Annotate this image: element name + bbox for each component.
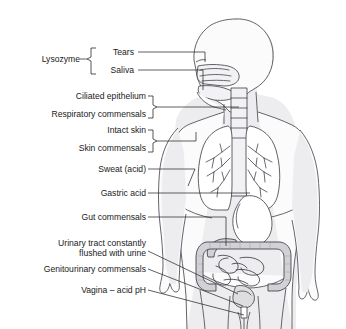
label-urinary-tract-line-1: Urinary tract constantly <box>58 238 147 248</box>
label-lysozyme: Lysozyme <box>42 54 81 64</box>
label-skin-commensals: Skin commensals <box>79 143 146 153</box>
label-gut-commensals: Gut commensals <box>82 212 146 222</box>
label-genitourinary-commensals: Genitourinary commensals <box>44 264 146 274</box>
label-ciliated-epithelium: Ciliated epithelium <box>76 91 146 101</box>
bracket-skin <box>148 130 157 152</box>
bracket-lysozyme <box>87 48 96 74</box>
leader-saliva <box>138 70 203 90</box>
label-sweat-acid: Sweat (acid) <box>98 164 146 174</box>
label-urinary-tract-line-2: flushed with urine <box>79 248 146 258</box>
label-gastric-acid: Gastric acid <box>101 188 147 198</box>
label-tears: Tears <box>113 47 134 57</box>
label-texts: Lysozyme Tears Saliva Ciliated epitheliu… <box>42 47 147 295</box>
urethra <box>241 307 247 318</box>
bracket-respiratory <box>148 96 157 118</box>
anatomy-diagram: Lysozyme Tears Saliva Ciliated epitheliu… <box>0 0 346 329</box>
label-respiratory-commensals: Respiratory commensals <box>51 109 146 119</box>
diagram-canvas: Lysozyme Tears Saliva Ciliated epitheliu… <box>0 0 346 329</box>
label-intact-skin: Intact skin <box>107 125 146 135</box>
trachea <box>231 88 247 196</box>
label-saliva: Saliva <box>111 65 135 75</box>
label-vagina-acid-ph: Vagina – acid pH <box>81 285 146 295</box>
